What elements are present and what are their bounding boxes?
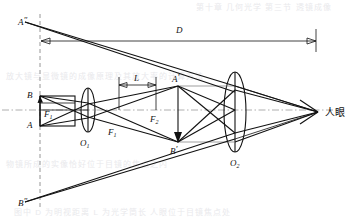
optics-ray-diagram: A″ B″ B A F1 O1 F1 F2 A′ B′ O2 D L 人眼: [0, 0, 358, 219]
label-a-object: A: [26, 120, 33, 130]
label-a-double-prime: A″: [17, 15, 28, 27]
virtual-image-rays: [25, 22, 318, 202]
label-o2: O2: [230, 158, 240, 169]
label-f1-image-side: F1: [107, 127, 117, 138]
label-b-double-prime: B″: [18, 196, 28, 208]
label-o1: O1: [80, 138, 90, 149]
label-b-object: B: [27, 90, 33, 100]
intermediate-image-arrow: [174, 86, 182, 143]
label-f1-object-side: F1: [43, 109, 53, 120]
label-f2: F2: [149, 114, 159, 125]
eye-convergence-point: [300, 100, 318, 124]
label-a-prime: A′: [171, 72, 181, 84]
label-dimension-d: D: [175, 25, 183, 35]
label-eye: 人眼: [325, 107, 345, 118]
label-dimension-l: L: [133, 73, 139, 83]
eyepiece-rays: [178, 86, 318, 142]
label-b-prime: B′: [170, 144, 179, 156]
